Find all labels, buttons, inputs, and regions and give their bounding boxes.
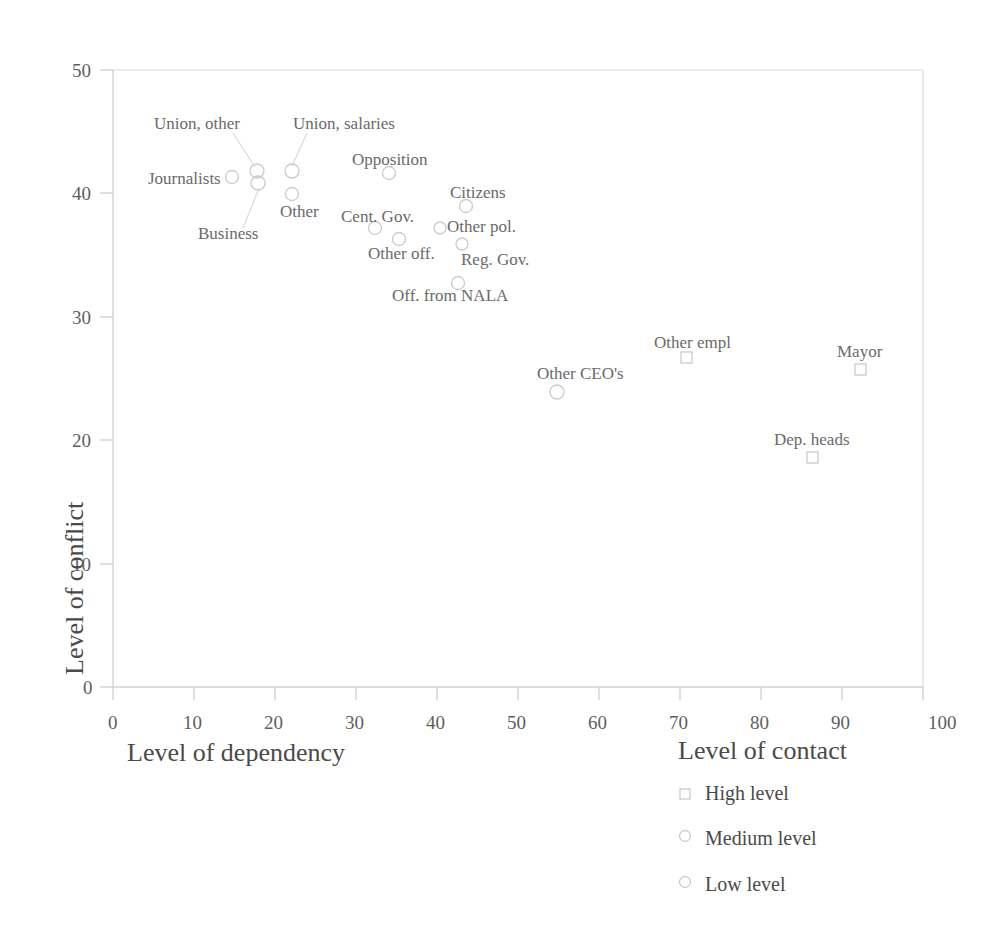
x-tick-label-50: 50 xyxy=(507,713,526,732)
point-label-off-from-nala: Off. from NALA xyxy=(392,287,508,304)
marker-dep-heads xyxy=(807,452,818,463)
point-label-union-other: Union, other xyxy=(154,115,240,132)
legend-label-low-level: Low level xyxy=(705,874,786,894)
point-label-business: Business xyxy=(198,225,258,242)
point-label-journalists: Journalists xyxy=(148,170,221,187)
marker-other-empl xyxy=(681,352,692,363)
y-tick-label-50: 50 xyxy=(72,61,91,80)
point-label-union-salaries: Union, salaries xyxy=(293,115,395,132)
point-label-cent-gov: Cent. Gov. xyxy=(341,208,414,225)
point-label-other-ceos: Other CEO's xyxy=(537,365,624,382)
point-label-opposition: Opposition xyxy=(352,151,428,168)
legend-marker-low-level xyxy=(680,877,691,888)
x-axis-title: Level of dependency xyxy=(127,740,345,766)
y-axis-title: Level of conflict xyxy=(62,502,88,675)
x-tick-label-20: 20 xyxy=(264,713,283,732)
marker-union-salaries xyxy=(285,164,299,178)
point-label-other-pol: Other pol. xyxy=(447,218,516,235)
y-axis-ticks xyxy=(100,70,113,687)
x-tick-label-60: 60 xyxy=(588,713,607,732)
legend-markers xyxy=(680,789,691,888)
x-tick-label-30: 30 xyxy=(345,713,364,732)
y-tick-label-20: 20 xyxy=(72,431,91,450)
leader-line-union-salaries xyxy=(292,133,307,166)
marker-other xyxy=(286,188,299,201)
y-tick-label-40: 40 xyxy=(72,184,91,203)
marker-reg-gov xyxy=(456,238,468,250)
marker-other-pol xyxy=(434,222,446,234)
y-tick-label-0: 0 xyxy=(83,678,93,697)
legend-title: Level of contact xyxy=(678,738,847,764)
point-label-other-empl: Other empl xyxy=(654,334,731,351)
x-tick-label-40: 40 xyxy=(426,713,445,732)
marker-other-ceos xyxy=(550,385,564,399)
legend-label-high-level: High level xyxy=(705,783,789,803)
point-label-mayor: Mayor xyxy=(837,343,882,360)
x-tick-label-90: 90 xyxy=(831,713,850,732)
y-tick-label-30: 30 xyxy=(72,308,91,327)
point-label-dep-heads: Dep. heads xyxy=(774,431,850,448)
point-label-other-off: Other off. xyxy=(368,245,435,262)
scatter-plot-figure: 50 40 30 20 10 0 0 10 20 30 40 50 60 70 … xyxy=(0,0,999,929)
point-label-other: Other xyxy=(280,203,319,220)
x-tick-label-100: 100 xyxy=(928,713,957,732)
marker-mayor xyxy=(855,364,866,375)
legend-marker-medium-level xyxy=(680,831,691,842)
leader-line-business xyxy=(243,188,259,228)
plot-frame xyxy=(113,70,923,687)
data-markers xyxy=(226,164,867,463)
x-tick-label-70: 70 xyxy=(669,713,688,732)
point-label-citizens: Citizens xyxy=(450,184,506,201)
legend-label-medium-level: Medium level xyxy=(705,828,817,848)
point-label-reg-gov: Reg. Gov. xyxy=(461,251,529,268)
leader-line-union-other xyxy=(233,133,255,167)
marker-journalists xyxy=(226,171,239,184)
x-tick-label-0: 0 xyxy=(108,713,118,732)
x-tick-label-80: 80 xyxy=(750,713,769,732)
plot-canvas xyxy=(0,0,999,929)
legend-marker-high-level xyxy=(680,789,690,799)
x-tick-label-10: 10 xyxy=(183,713,202,732)
x-axis-ticks xyxy=(113,687,923,700)
